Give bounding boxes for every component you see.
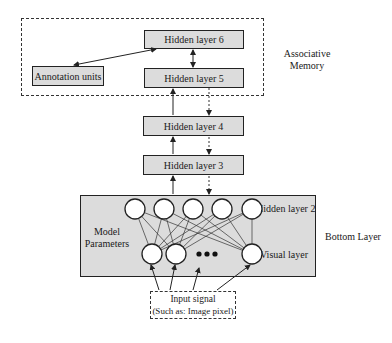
hidden-layer-2-nodes	[125, 199, 262, 219]
input-arrows	[151, 265, 250, 290]
annotation-link-arrow	[74, 49, 156, 65]
ellipsis-dots-icon	[196, 251, 217, 256]
diagram-connections	[0, 0, 392, 343]
visual-layer-nodes	[142, 244, 262, 264]
